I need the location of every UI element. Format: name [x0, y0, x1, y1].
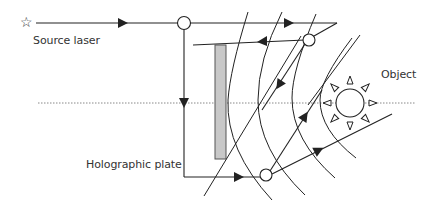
arrow-icon [234, 172, 244, 182]
reference-beam-diagonal [262, 44, 305, 110]
return-beam [193, 40, 305, 45]
arrow-icon [298, 109, 312, 123]
label-object: Object [381, 68, 416, 81]
arrow-icon [312, 143, 325, 156]
label-holographic-plate: Holographic plate [86, 158, 182, 171]
object-beam-2 [272, 114, 392, 174]
object-beam-1 [270, 90, 322, 171]
arrow-icon [118, 18, 128, 28]
sun-icon [323, 76, 377, 130]
label-source-laser: Source laser [33, 34, 100, 47]
holographic-plate [215, 45, 226, 159]
beam-splitter-bottom [260, 169, 272, 181]
star-icon: ☆ [20, 15, 33, 29]
hologram-diagram [0, 0, 437, 215]
mirror-top [303, 34, 315, 46]
beam-splitter-top [178, 17, 191, 30]
arrow-icon [284, 18, 294, 28]
arrow-icon [257, 36, 267, 46]
reflector-diagonal [314, 23, 337, 36]
